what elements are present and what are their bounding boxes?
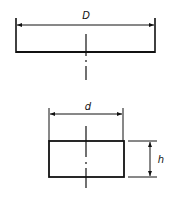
dimension-label-h: h (158, 154, 164, 165)
top-view: D (16, 10, 155, 80)
dimension-label-D: D (82, 10, 90, 21)
dimension-label-d: d (85, 101, 92, 112)
technical-drawing: D d h (0, 0, 173, 203)
bottom-view: d h (49, 101, 164, 188)
